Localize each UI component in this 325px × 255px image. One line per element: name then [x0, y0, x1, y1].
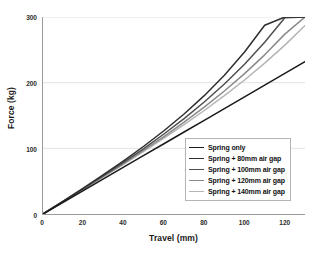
y-axis-tick-label: 300 [18, 14, 40, 21]
legend-color-swatch [189, 169, 204, 170]
x-axis-tick-label: 100 [239, 219, 250, 226]
x-axis-tick-label: 120 [279, 219, 290, 226]
legend-item-label: Spring + 100mm air gap [208, 166, 285, 173]
y-axis-title-text: Force (kg) [6, 86, 16, 128]
x-axis-title: Travel (mm) [42, 233, 305, 243]
legend-item[interactable]: Spring + 80mm air gap [189, 153, 285, 164]
legend-item-label: Spring + 120mm air gap [208, 177, 285, 184]
legend-item[interactable]: Spring + 100mm air gap [189, 164, 285, 175]
legend-color-swatch [189, 180, 204, 181]
legend-item-label: Spring only [208, 144, 245, 151]
legend-item-label: Spring + 140mm air gap [208, 188, 285, 195]
legend-item-label: Spring + 80mm air gap [208, 155, 281, 162]
x-axis-tick-label: 20 [79, 219, 86, 226]
legend-item[interactable]: Spring + 140mm air gap [189, 186, 285, 197]
x-axis-tick-label: 40 [119, 219, 126, 226]
legend-item[interactable]: Spring + 120mm air gap [189, 175, 285, 186]
y-axis-tick-label: 100 [18, 146, 40, 153]
chart-legend: Spring onlySpring + 80mm air gapSpring +… [185, 138, 291, 201]
legend-item[interactable]: Spring only [189, 142, 285, 153]
y-axis-tick-label: 200 [18, 80, 40, 87]
legend-color-swatch [189, 158, 204, 159]
x-axis-tick-label: 0 [40, 219, 44, 226]
legend-color-swatch [189, 147, 204, 148]
y-axis-tick-labels: 0100200300 [18, 17, 40, 215]
chart-figure: Force (kg) 0100200300 020406080100120 Tr… [0, 0, 325, 255]
x-axis-tick-label: 80 [200, 219, 207, 226]
x-axis-tick-labels: 020406080100120 [42, 219, 305, 231]
legend-color-swatch [189, 191, 204, 192]
y-axis-tick-label: 0 [18, 212, 40, 219]
x-axis-tick-label: 60 [160, 219, 167, 226]
